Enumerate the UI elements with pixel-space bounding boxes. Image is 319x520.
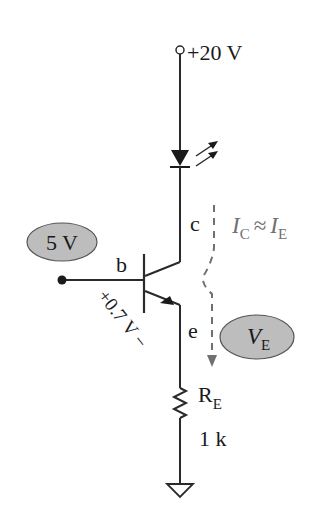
resistor-icon xyxy=(174,388,186,418)
current-relation-label: IC≈IE xyxy=(231,213,287,242)
current-path-arrow-icon xyxy=(203,205,217,367)
base-voltage-label: 5 V xyxy=(46,230,78,255)
ve-subscript: E xyxy=(261,337,270,353)
ic-subscript: C xyxy=(240,226,250,242)
resistor-subscript: E xyxy=(213,396,222,412)
base-label: b xyxy=(116,252,127,277)
led-icon xyxy=(170,141,218,167)
ground-icon xyxy=(167,484,193,497)
collector-label: c xyxy=(190,211,200,236)
ie-subscript: E xyxy=(278,226,287,242)
resistor-value: 1 k xyxy=(199,426,227,451)
npn-transistor-icon xyxy=(144,254,180,313)
supply-terminal xyxy=(176,46,184,54)
resistor-symbol: R xyxy=(198,382,213,407)
base-input-node xyxy=(58,276,67,285)
approx-symbol: ≈ xyxy=(254,213,267,238)
supply-label: +20 V xyxy=(187,40,243,65)
resistor-label: RE xyxy=(198,382,222,412)
circuit-diagram: +20 V b c e +0.7 V − 5 V xyxy=(0,0,319,520)
emitter-label: e xyxy=(188,318,198,343)
